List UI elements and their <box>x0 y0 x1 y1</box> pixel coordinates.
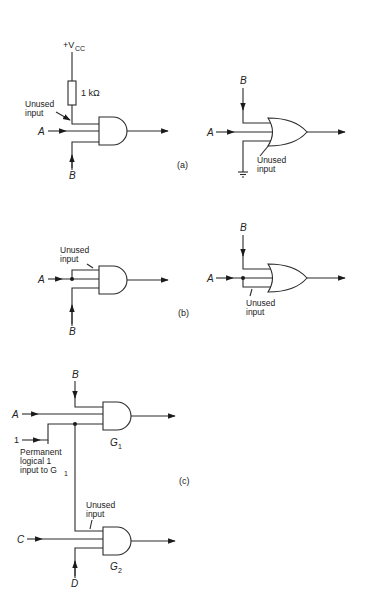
input-b-label: B <box>69 326 76 337</box>
unused-label-2: input <box>86 509 105 519</box>
panel-b-label: (b) <box>178 308 189 318</box>
pointer-line <box>250 289 252 296</box>
unused-label-2: input <box>25 108 44 118</box>
input-b-wire <box>75 396 103 407</box>
panel-a-and-circuit: +V CC 1 kΩ Unused input A B <box>25 40 168 181</box>
pullup-wire <box>72 105 99 124</box>
resistor-label: 1 kΩ <box>81 88 100 98</box>
and-gate-g2-icon <box>103 527 131 555</box>
input-b-wire <box>243 108 272 123</box>
pointer-arrow-icon <box>56 112 70 120</box>
pointer-line <box>90 520 92 529</box>
input-b-label: B <box>240 75 247 86</box>
input-c-label: C <box>17 534 25 545</box>
gate2-name: G <box>110 561 118 572</box>
panel-a-or-circuit: B A Unused input <box>206 75 345 177</box>
input-a-label: A <box>37 126 45 137</box>
vcc-subscript: CC <box>75 45 85 52</box>
gate1-subscript: 1 <box>118 443 122 450</box>
input-b-label: B <box>240 222 247 233</box>
and-gate-icon <box>99 266 127 294</box>
resistor-icon <box>68 81 76 105</box>
ground-icon <box>238 172 248 177</box>
and-gate-icon <box>99 117 127 145</box>
tied-input-wire <box>243 278 272 287</box>
panel-c-gate2-circuit: Unused input C D G 2 <box>17 500 175 589</box>
pointer-line <box>87 264 93 268</box>
logic-one-label: 1 <box>14 435 19 445</box>
panel-a-label: (a) <box>177 160 188 170</box>
or-gate-icon <box>268 264 307 292</box>
input-b-label: B <box>72 369 79 380</box>
permanent-note-subscript: 1 <box>64 470 68 477</box>
input-a-label: A <box>11 409 19 420</box>
logic-gates-diagram: +V CC 1 kΩ Unused input A B (a) B A <box>0 0 365 596</box>
input-b-wire <box>243 254 272 269</box>
input-b-label: B <box>69 170 76 181</box>
junction-dot <box>241 276 245 280</box>
panel-b-and-circuit: Unused input A B <box>37 245 168 337</box>
gate1-name: G <box>110 437 118 448</box>
panel-c-label: (c) <box>179 476 190 486</box>
permanent-note-line3: input to G <box>20 465 57 475</box>
unused-label-2: input <box>257 164 276 174</box>
and-gate-g1-icon <box>103 402 131 430</box>
logic-one-wire <box>40 424 103 440</box>
input-a-label: A <box>206 127 214 138</box>
input-b-wire <box>72 288 99 326</box>
input-a-label: A <box>37 274 45 285</box>
unused-label-2: input <box>60 254 79 264</box>
input-d-wire <box>75 548 103 578</box>
vcc-label: +V <box>63 40 74 50</box>
junction-dot <box>70 277 74 281</box>
panel-c-gate1-circuit: B A 1 G 1 Permanent logical 1 input to G… <box>11 369 175 477</box>
input-b-wire <box>72 142 99 170</box>
gate2-subscript: 2 <box>118 567 122 574</box>
input-a-label: A <box>206 273 214 284</box>
panel-b-or-circuit: B A Unused input <box>206 222 345 317</box>
input-d-label: D <box>71 578 78 589</box>
unused-label-2: input <box>246 307 265 317</box>
tied-input-wire <box>72 270 99 279</box>
or-gate-icon <box>268 118 307 146</box>
